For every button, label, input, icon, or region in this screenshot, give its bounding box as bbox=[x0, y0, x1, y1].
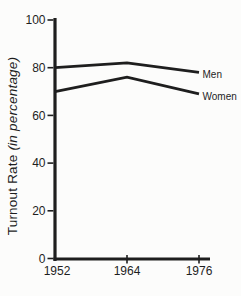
x-tick-label: 1964 bbox=[114, 264, 141, 278]
y-axis-title-unit: (in percentage) bbox=[5, 57, 20, 151]
y-tick-label: 40 bbox=[32, 156, 46, 170]
y-tick-label: 100 bbox=[25, 13, 45, 27]
y-tick-label: 60 bbox=[32, 109, 46, 123]
y-tick-label: 20 bbox=[32, 204, 46, 218]
women-line bbox=[55, 77, 199, 94]
x-tick-label: 1976 bbox=[186, 264, 213, 278]
y-tick-label: 80 bbox=[32, 61, 46, 75]
men-series-label: Men bbox=[203, 69, 222, 80]
y-axis-title-main: Turnout Rate bbox=[5, 151, 20, 236]
women-series-label: Women bbox=[203, 91, 237, 102]
voter-turnout-line-chart: 020406080100195219641976Turnout Rate (in… bbox=[0, 0, 241, 296]
chart-root: 020406080100195219641976Turnout Rate (in… bbox=[5, 13, 237, 278]
men-line bbox=[55, 63, 199, 73]
chart-canvas: 020406080100195219641976Turnout Rate (in… bbox=[0, 0, 241, 296]
x-tick-label: 1952 bbox=[44, 264, 71, 278]
y-axis-title: Turnout Rate (in percentage) bbox=[5, 57, 20, 235]
